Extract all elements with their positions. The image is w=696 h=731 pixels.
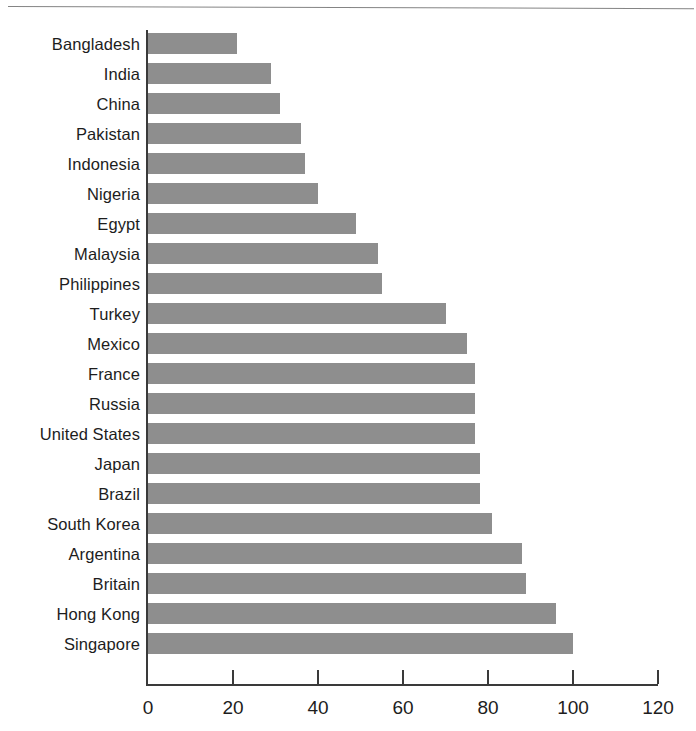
bar-category-label: Britain — [93, 573, 140, 595]
bar-category-label: Indonesia — [68, 153, 140, 175]
bar-category-label: Bangladesh — [52, 33, 140, 55]
x-axis-tick — [487, 670, 489, 684]
bar-category-label: France — [88, 363, 140, 385]
bar-row: Malaysia — [0, 243, 696, 273]
bar — [148, 153, 305, 174]
bar — [148, 513, 492, 534]
bar-category-label: Russia — [89, 393, 140, 415]
bar-category-label: Philippines — [59, 273, 140, 295]
x-axis-tick-label: 80 — [477, 697, 498, 719]
bar-row: Hong Kong — [0, 603, 696, 633]
bar — [148, 363, 475, 384]
x-axis-tick-label: 20 — [222, 697, 243, 719]
bar — [148, 183, 318, 204]
bar — [148, 93, 280, 114]
bar-category-label: Argentina — [68, 543, 140, 565]
bar-row: India — [0, 63, 696, 93]
bar-row: Russia — [0, 393, 696, 423]
bar — [148, 243, 378, 264]
bar-row: France — [0, 363, 696, 393]
bar — [148, 123, 301, 144]
x-axis-tick-label: 0 — [143, 697, 154, 719]
bar-row: Bangladesh — [0, 33, 696, 63]
bar — [148, 483, 480, 504]
bar-row: Nigeria — [0, 183, 696, 213]
bar — [148, 333, 467, 354]
bar — [148, 633, 573, 654]
bar — [148, 423, 475, 444]
bar-chart: BangladeshIndiaChinaPakistanIndonesiaNig… — [0, 0, 696, 731]
bar-category-label: Singapore — [64, 633, 140, 655]
bar-row: United States — [0, 423, 696, 453]
bar — [148, 543, 522, 564]
bar-row: Mexico — [0, 333, 696, 363]
bar — [148, 303, 446, 324]
bar-row: Egypt — [0, 213, 696, 243]
x-axis-tick — [657, 670, 659, 684]
bar-row: Pakistan — [0, 123, 696, 153]
bar — [148, 273, 382, 294]
bar — [148, 603, 556, 624]
bar-category-label: Hong Kong — [57, 603, 140, 625]
bar-row: Argentina — [0, 543, 696, 573]
bar-category-label: Brazil — [98, 483, 140, 505]
bar-row: Brazil — [0, 483, 696, 513]
bar — [148, 393, 475, 414]
bar-category-label: India — [104, 63, 140, 85]
x-axis-tick — [317, 670, 319, 684]
bar-category-label: Egypt — [97, 213, 140, 235]
bar — [148, 63, 271, 84]
bar-category-label: Malaysia — [74, 243, 140, 265]
bar — [148, 453, 480, 474]
bar — [148, 213, 356, 234]
bar-row: Indonesia — [0, 153, 696, 183]
x-axis-tick — [402, 670, 404, 684]
bar-category-label: South Korea — [47, 513, 140, 535]
x-axis-tick-label: 100 — [557, 697, 589, 719]
x-axis-tick-label: 120 — [642, 697, 674, 719]
bar-row: Britain — [0, 573, 696, 603]
bar — [148, 573, 526, 594]
bar-row: China — [0, 93, 696, 123]
bar-category-label: Turkey — [90, 303, 140, 325]
bar-category-label: Pakistan — [76, 123, 140, 145]
bar-row: Philippines — [0, 273, 696, 303]
bar-category-label: Mexico — [87, 333, 140, 355]
bar-category-label: United States — [40, 423, 140, 445]
bar-category-label: Japan — [95, 453, 140, 475]
bar-row: Singapore — [0, 633, 696, 663]
bar-row: Japan — [0, 453, 696, 483]
x-axis-tick — [232, 670, 234, 684]
bar-row: Turkey — [0, 303, 696, 333]
x-axis-tick — [572, 670, 574, 684]
plot-area: BangladeshIndiaChinaPakistanIndonesiaNig… — [0, 0, 696, 731]
bar-category-label: Nigeria — [87, 183, 140, 205]
bar-rows: BangladeshIndiaChinaPakistanIndonesiaNig… — [0, 33, 696, 663]
bar-row: South Korea — [0, 513, 696, 543]
x-axis-tick-label: 60 — [392, 697, 413, 719]
bar — [148, 33, 237, 54]
x-axis-line — [146, 684, 658, 686]
x-axis-tick-label: 40 — [307, 697, 328, 719]
bar-category-label: China — [96, 93, 140, 115]
